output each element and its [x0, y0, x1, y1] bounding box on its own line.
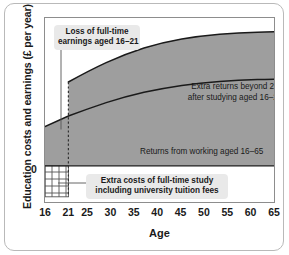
x-axis-tick-labels: 1621253035404550556065: [44, 206, 275, 222]
x-tick-label: 40: [151, 206, 163, 218]
annotation-loss-line1: Loss of full-time: [65, 27, 128, 36]
x-tick-label: 30: [105, 206, 117, 218]
x-tick-label: 55: [221, 206, 233, 218]
x-axis-title: Age: [44, 227, 275, 239]
annotation-extra-returns: Extra returns beyond 21 after studying a…: [185, 82, 275, 103]
y-tick-label-zero: 0: [31, 163, 37, 175]
x-tick-label: 65: [268, 206, 280, 218]
annotation-costs-line1: Extra costs of full-time study: [101, 176, 213, 185]
annotation-extra-returns-line1: Extra returns beyond 21: [191, 82, 275, 91]
annotation-extra-returns-line2: after studying aged 16–21: [188, 93, 275, 102]
x-tick-label: 45: [175, 206, 187, 218]
x-tick-label: 25: [81, 206, 93, 218]
x-tick-label: 16: [39, 206, 51, 218]
annotation-returns-working-line1: Returns from working aged 16–65: [140, 147, 263, 156]
annotation-returns-working: Returns from working aged 16–65: [140, 147, 260, 158]
x-tick-label: 35: [128, 206, 140, 218]
x-tick-label: 21: [63, 206, 75, 218]
annotation-costs-line2: including university tuition fees: [95, 186, 218, 195]
annotation-extra-costs: Extra costs of full-time study including…: [86, 174, 228, 199]
figure-container: Education costs and earnings (£ per year…: [0, 0, 289, 255]
y-axis-title: Education costs and earnings (£ per year…: [21, 9, 33, 209]
x-tick-label: 50: [198, 206, 210, 218]
area-education-costs: [45, 166, 68, 197]
x-tick-label: 60: [245, 206, 257, 218]
annotation-loss-line2: earnings aged 16–21: [58, 37, 139, 46]
annotation-loss-of-earnings: Loss of full-time earnings aged 16–21: [54, 25, 140, 50]
